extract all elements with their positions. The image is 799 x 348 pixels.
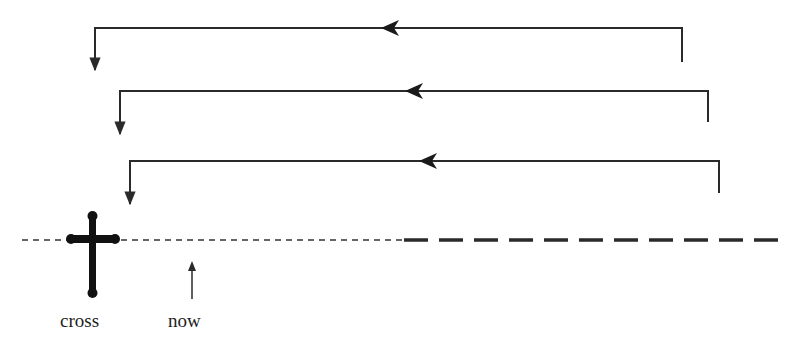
loop-3	[130, 153, 719, 204]
loop-1-path	[95, 28, 682, 70]
diagram-canvas: cross now	[0, 0, 799, 348]
up-arrow-icon	[188, 261, 196, 299]
loop-1	[95, 20, 682, 70]
now-label: now	[168, 310, 201, 331]
cross-icon	[66, 211, 120, 298]
loop-2-path	[120, 91, 708, 134]
loop-3-path	[130, 161, 719, 204]
cross-label: cross	[60, 310, 99, 331]
loop-2	[120, 83, 708, 134]
